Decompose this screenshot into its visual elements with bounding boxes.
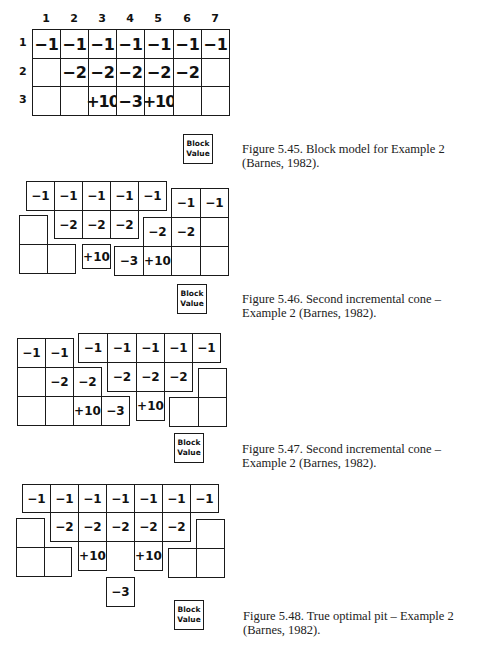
- block-cell: −2: [60, 58, 89, 87]
- block-cell: [201, 86, 230, 116]
- block-cell: −1: [192, 333, 221, 363]
- block-cell: −2: [110, 210, 139, 239]
- block-cell: −1: [106, 484, 135, 513]
- block-cell: −2: [164, 362, 193, 392]
- legend-line: Value: [180, 299, 203, 309]
- block-cell: −1: [116, 29, 145, 59]
- block-cell: −2: [171, 217, 201, 247]
- block-cell: −1: [134, 484, 163, 513]
- legend-line: Value: [177, 448, 200, 458]
- block-cell: [44, 547, 72, 577]
- block-cell: −1: [107, 333, 137, 363]
- block-cell: −2: [162, 512, 191, 542]
- block-value-legend: Block Value: [174, 600, 204, 630]
- legend-line: Block: [187, 139, 210, 149]
- block-cell: −1: [17, 338, 46, 368]
- block-cell: −2: [88, 58, 117, 87]
- column-label: 4: [116, 12, 144, 25]
- block-cell: −1: [54, 181, 83, 211]
- block-cell: −2: [50, 512, 79, 542]
- column-label: 5: [144, 12, 172, 25]
- row-label: 1: [19, 36, 27, 49]
- block-cell: −1: [88, 29, 117, 59]
- block-cell: −2: [144, 58, 174, 87]
- legend-line: Value: [177, 615, 200, 625]
- legend-line: Block: [178, 605, 201, 615]
- block-cell: −3: [106, 577, 135, 607]
- figure-caption: Figure 5.47. Second incremental cone – E…: [242, 442, 477, 470]
- block-cell: [200, 246, 229, 276]
- block-cell: +10: [88, 86, 117, 116]
- column-label: 1: [32, 12, 60, 25]
- block-cell: −2: [107, 362, 137, 392]
- block-cell: +10: [143, 246, 172, 276]
- block-cell: +10: [144, 86, 174, 116]
- block-cell: −1: [22, 484, 51, 513]
- block-cell: −1: [60, 29, 89, 59]
- row-label: 3: [19, 93, 27, 106]
- column-label: 6: [173, 12, 201, 25]
- block-cell: +10: [136, 391, 165, 421]
- block-cell: [16, 547, 45, 577]
- block-cell: −1: [138, 181, 167, 211]
- block-cell: −2: [143, 217, 172, 247]
- block-cell: −2: [45, 367, 74, 397]
- block-cell: [200, 217, 229, 247]
- block-cell: +10: [134, 541, 163, 571]
- block-cell: −1: [78, 484, 107, 513]
- block-cell: [168, 548, 197, 578]
- block-cell: [32, 58, 61, 87]
- block-cell: [196, 548, 225, 578]
- block-cell: [45, 396, 74, 426]
- block-cell: −3: [116, 86, 145, 116]
- block-cell: [17, 396, 46, 426]
- block-cell: −1: [200, 188, 229, 218]
- block-cell: [60, 86, 89, 116]
- legend-line: Value: [186, 149, 209, 159]
- block-cell: −1: [78, 333, 108, 363]
- block-cell: −2: [106, 512, 135, 542]
- block-cell: −1: [201, 29, 230, 59]
- block-cell: −1: [110, 181, 139, 211]
- block-value-legend: Block Value: [177, 284, 207, 314]
- block-cell: [201, 58, 230, 87]
- block-cell: [19, 215, 48, 245]
- block-cell: +10: [78, 541, 107, 571]
- block-cell: [171, 246, 201, 276]
- block-cell: −3: [101, 396, 130, 426]
- block-value-legend: Block Value: [183, 134, 213, 164]
- block-cell: −3: [114, 246, 144, 276]
- block-cell: [32, 86, 61, 116]
- block-cell: [196, 519, 225, 549]
- block-cell: [47, 244, 76, 274]
- block-value-legend: Block Value: [174, 433, 204, 463]
- figure-caption: Figure 5.46. Second incremental cone – E…: [242, 292, 477, 320]
- block-cell: −1: [50, 484, 79, 513]
- block-cell: [173, 86, 202, 116]
- block-cell: [198, 397, 227, 427]
- block-cell: −2: [78, 512, 107, 542]
- block-cell: −2: [136, 362, 165, 392]
- block-cell: −1: [32, 29, 61, 59]
- column-label: 7: [201, 12, 229, 25]
- block-cell: −1: [164, 333, 193, 363]
- block-cell: −2: [73, 367, 102, 397]
- block-cell: −2: [173, 58, 202, 87]
- block-cell: −1: [144, 29, 174, 59]
- column-label: 3: [88, 12, 116, 25]
- block-cell: −1: [171, 188, 201, 218]
- block-cell: −2: [54, 210, 83, 239]
- block-cell: −2: [116, 58, 145, 87]
- row-label: 2: [19, 65, 27, 78]
- block-cell: −2: [82, 210, 111, 239]
- block-cell: [17, 367, 46, 397]
- block-cell: [16, 518, 45, 548]
- block-cell: +10: [82, 244, 111, 269]
- block-cell: −1: [162, 484, 191, 513]
- block-cell: −1: [45, 338, 74, 368]
- block-cell: −1: [190, 484, 219, 513]
- legend-line: Block: [178, 438, 201, 448]
- block-cell: −1: [26, 181, 55, 211]
- block-cell: −1: [173, 29, 202, 59]
- block-cell: +10: [73, 396, 102, 426]
